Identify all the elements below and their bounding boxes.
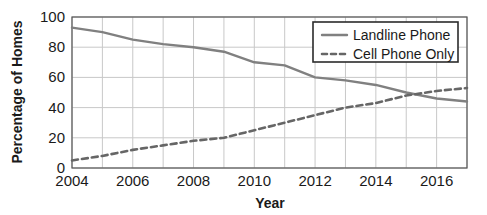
x-tick-label: 2016 xyxy=(420,172,453,189)
y-tick-label: 40 xyxy=(48,99,65,116)
x-tick-label: 2004 xyxy=(55,172,88,189)
line-chart: 020406080100 200420062008201020122014201… xyxy=(0,0,487,215)
chart-container: 020406080100 200420062008201020122014201… xyxy=(0,0,487,215)
x-tick-label: 2012 xyxy=(298,172,331,189)
x-tick-label: 2014 xyxy=(359,172,392,189)
chart-legend: Landline PhoneCell Phone Only xyxy=(313,22,458,62)
y-tick-label: 100 xyxy=(40,8,65,25)
x-tick-label: 2006 xyxy=(116,172,149,189)
y-tick-label: 20 xyxy=(48,129,65,146)
y-tick-label: 80 xyxy=(48,38,65,55)
x-axis-title: Year xyxy=(255,195,285,211)
y-tick-label: 60 xyxy=(48,68,65,85)
legend-label: Landline Phone xyxy=(353,27,451,43)
y-axis-title: Percentage of Homes xyxy=(9,20,25,163)
x-tick-label: 2008 xyxy=(177,172,210,189)
x-tick-label: 2010 xyxy=(238,172,271,189)
legend-label: Cell Phone Only xyxy=(353,46,454,62)
